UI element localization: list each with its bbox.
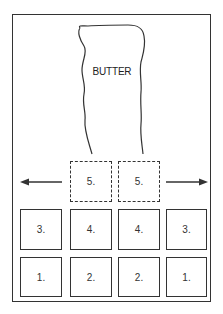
dashed-box-5-left: 5. (70, 161, 112, 202)
box-label: 2. (135, 272, 143, 283)
box-2-left: 2. (70, 257, 112, 297)
box-1-left: 1. (20, 257, 62, 297)
box-label: 5. (87, 176, 95, 187)
dashed-box-5-right: 5. (118, 161, 160, 202)
box-2-right: 2. (118, 257, 160, 297)
box-3-right: 3. (166, 209, 207, 250)
box-label: 4. (87, 224, 95, 235)
box-4-right: 4. (118, 209, 160, 250)
box-label: 2. (87, 272, 95, 283)
arrow-right-icon (164, 176, 210, 188)
arrow-left-icon (18, 176, 64, 188)
box-label: 5. (135, 176, 143, 187)
box-1-right: 1. (166, 257, 207, 297)
box-label: 1. (182, 272, 190, 283)
box-3-left: 3. (20, 209, 62, 250)
box-label: 4. (135, 224, 143, 235)
butter-label: BUTTER (92, 66, 132, 77)
box-label: 3. (37, 224, 45, 235)
box-4-left: 4. (70, 209, 112, 250)
box-label: 1. (37, 272, 45, 283)
box-label: 3. (182, 224, 190, 235)
